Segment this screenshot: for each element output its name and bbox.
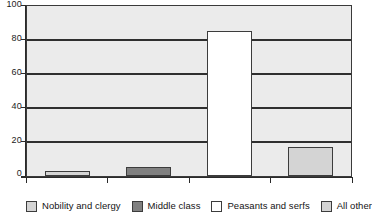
x-axis-tick: [189, 177, 190, 183]
x-axis-line: [21, 177, 353, 178]
y-axis-tick-label: 60: [0, 68, 22, 77]
plot-area: [26, 5, 352, 177]
y-axis-tick-label: 0: [0, 169, 22, 178]
legend-item-label: Nobility and clergy: [42, 201, 121, 211]
legend-item-label: Peasants and serfs: [227, 201, 309, 211]
y-axis-tick-label: 100: [0, 0, 22, 9]
x-axis-tick: [107, 177, 108, 183]
bar-slot-peasants-and-serfs: [189, 6, 270, 176]
bar-slot-all-other: [270, 6, 351, 176]
y-axis-tick-label: 80: [0, 34, 22, 43]
legend-item-label: All other: [337, 201, 372, 211]
y-axis-tick-label: 40: [0, 102, 22, 111]
bar-middle-class: [126, 167, 171, 176]
bar-all-other: [288, 147, 333, 176]
bar-slot-nobility-and-clergy: [27, 6, 108, 176]
x-axis-tick: [26, 177, 27, 183]
bar-slot-middle-class: [108, 6, 189, 176]
legend-item-peasants-and-serfs: Peasants and serfs: [211, 201, 309, 212]
legend-item-middle-class: Middle class: [132, 201, 201, 212]
legend-swatch-icon: [321, 201, 332, 212]
legend: Nobility and clergy Middle class Peasant…: [26, 196, 361, 216]
legend-swatch-icon: [26, 201, 37, 212]
y-axis-tick-label: 20: [0, 136, 22, 145]
legend-swatch-icon: [211, 201, 222, 212]
legend-item-all-other: All other: [321, 201, 372, 212]
bar-nobility-and-clergy: [45, 171, 90, 176]
y-axis-labels: 100 80 60 40 20 0: [0, 0, 22, 178]
x-axis-tick: [352, 177, 353, 183]
bar-series: [27, 6, 351, 176]
legend-swatch-icon: [132, 201, 143, 212]
legend-item-label: Middle class: [148, 201, 201, 211]
legend-item-nobility-and-clergy: Nobility and clergy: [26, 201, 121, 212]
bar-peasants-and-serfs: [207, 31, 252, 176]
x-axis-tick: [270, 177, 271, 183]
